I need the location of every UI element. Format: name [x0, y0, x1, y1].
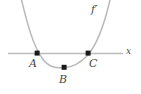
- point-marker-b: [62, 65, 67, 70]
- point-label-b: B: [59, 74, 67, 85]
- x-axis-label: x: [126, 47, 131, 56]
- point-marker-c: [86, 51, 91, 56]
- curve-label-f-prime: f′: [91, 4, 98, 15]
- graph-canvas: [0, 0, 141, 94]
- point-label-c: C: [89, 58, 97, 69]
- derivative-graph-figure: A B C f′ x: [0, 0, 141, 94]
- point-marker-a: [35, 51, 40, 56]
- point-label-a: A: [29, 58, 37, 69]
